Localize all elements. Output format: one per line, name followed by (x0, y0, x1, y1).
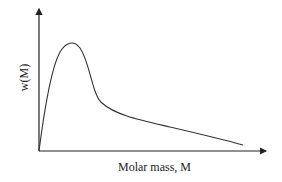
y-axis-label: w(M) (17, 58, 32, 98)
chart-area (0, 0, 282, 182)
distribution-curve (39, 43, 243, 151)
x-axis-label: Molar mass, M (118, 160, 191, 175)
